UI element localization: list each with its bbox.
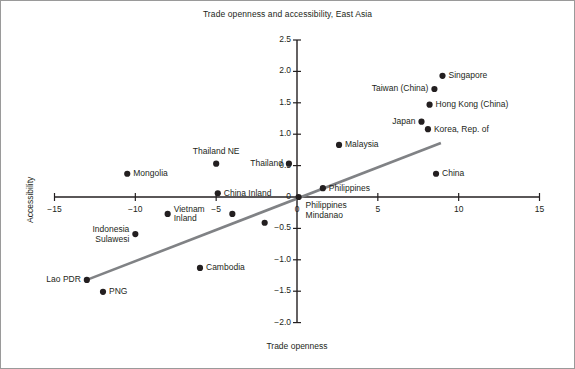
x-tick-label: −15: [43, 205, 67, 214]
x-tick-label: 5: [366, 205, 390, 214]
data-point-label: China: [442, 169, 464, 179]
data-point-label: Hong Kong (China): [436, 100, 509, 110]
y-tick-label: 2.5: [261, 35, 291, 44]
y-tick-label: −2.0: [261, 318, 291, 327]
data-point: [229, 211, 235, 217]
x-tick-label: 10: [447, 205, 471, 214]
plot-svg: [1, 1, 575, 369]
data-point-label: Taiwan (China): [372, 84, 429, 94]
data-point: [431, 86, 437, 92]
data-point-label: China Inland: [224, 189, 272, 199]
data-point-label: VietnamInland: [174, 205, 205, 224]
data-point: [165, 211, 171, 217]
data-point: [197, 265, 203, 271]
data-point: [84, 277, 90, 283]
y-tick-label: −0.5: [261, 223, 291, 232]
y-tick-label: −1.5: [261, 286, 291, 295]
data-point: [124, 171, 130, 177]
x-tick-label: −5: [204, 205, 228, 214]
data-point: [320, 185, 326, 191]
data-point: [213, 161, 219, 167]
data-point-label: Lao PDR: [46, 275, 81, 285]
data-point: [425, 126, 431, 132]
data-point-label: Thailand: [250, 159, 283, 169]
chart-figure: Trade openness and accessibility, East A…: [0, 0, 575, 369]
y-tick-label: 1.0: [261, 129, 291, 138]
y-axis-title: Accessibility: [25, 177, 35, 223]
data-point: [296, 194, 302, 200]
data-point: [439, 73, 445, 79]
y-tick-label: 2.0: [261, 66, 291, 75]
data-point-label: PNG: [109, 287, 127, 297]
data-point: [132, 231, 138, 237]
x-tick-label: 15: [528, 205, 552, 214]
data-point: [433, 171, 439, 177]
data-point-label: Korea, Rep. of: [434, 125, 489, 135]
scatter-plot-area: −15−10−50510152.52.01.51.00.50−0.5−1.0−1…: [1, 1, 575, 369]
data-point-label: Thailand NE: [176, 147, 256, 157]
data-point: [336, 142, 342, 148]
axes-group: [55, 40, 540, 323]
data-point: [215, 190, 221, 196]
data-point: [100, 289, 106, 295]
data-point-label: PhilippinesMindanao: [306, 201, 347, 220]
data-point-label: IndonesiaSulawesi: [92, 225, 129, 244]
data-point-label: Philippines: [329, 184, 370, 194]
data-point: [418, 119, 424, 125]
data-point-label: Cambodia: [206, 263, 245, 273]
data-point-label: Japan: [392, 117, 415, 127]
x-tick-label: −10: [123, 205, 147, 214]
data-point-label: Malaysia: [345, 140, 379, 150]
y-tick-label: −1.0: [261, 255, 291, 264]
data-point-label: Mongolia: [133, 169, 168, 179]
x-axis-title: Trade openness: [257, 341, 337, 351]
data-point: [426, 102, 432, 108]
y-tick-label: 1.5: [261, 98, 291, 107]
data-point-label: Singapore: [449, 71, 488, 81]
